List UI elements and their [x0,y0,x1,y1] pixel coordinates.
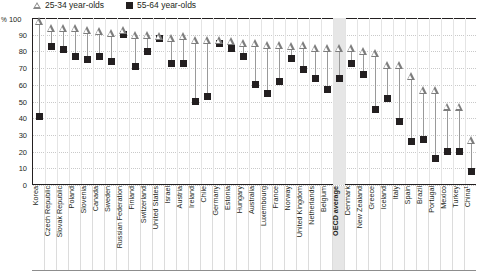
data-column [141,18,153,184]
data-column [69,18,81,184]
connector-line [207,40,208,97]
data-point-55-64 [384,95,391,102]
data-column [57,18,69,184]
plot-area [32,18,476,185]
y-axis-tick-label: 10 [19,164,27,173]
data-point-25-34 [47,24,55,32]
category-label-text: Spain [404,186,411,204]
category-label-text: Norway [284,186,291,210]
data-column [429,18,441,184]
data-column [165,18,177,184]
data-point-55-64 [300,66,307,73]
data-point-25-34 [227,37,235,45]
category-label-text: OECD average [332,186,339,236]
data-point-55-64 [324,86,331,93]
data-column [177,18,189,184]
data-column [369,18,381,184]
data-column [441,18,453,184]
y-axis-tick-label: 40 [19,114,27,123]
data-point-25-34 [371,49,379,57]
category-label-text: Slovenia [80,186,87,214]
data-point-55-64 [240,53,247,60]
data-column [189,18,201,184]
data-column [81,18,93,184]
connector-line [435,90,436,158]
category-label-text: Poland [68,186,75,208]
connector-line [411,76,412,141]
connector-line [387,65,388,98]
category-label-text: Luxembourg [260,186,267,226]
category-label-text: Italy [392,186,399,199]
data-point-55-64 [264,90,271,97]
connector-line [279,45,280,82]
data-point-25-34 [335,44,343,52]
connector-line [255,43,256,85]
data-point-25-34 [311,44,319,52]
category-label-text: Switzerland [140,186,147,223]
category-label-text: Brazil [416,186,423,204]
data-point-55-64 [132,63,139,70]
category-label-text: Israel [164,186,171,204]
data-point-25-34 [131,31,139,39]
category-label-text: China¹ [464,186,471,207]
data-column [93,18,105,184]
data-point-55-64 [432,155,439,162]
data-point-55-64 [60,46,67,53]
data-point-25-34 [215,36,223,44]
data-point-25-34 [95,27,103,35]
data-point-25-34 [59,24,67,32]
connector-line [423,90,424,140]
data-column [453,18,465,184]
data-point-55-64 [348,60,355,67]
data-column [297,18,309,184]
category-label-text: Hungary [236,186,243,213]
data-point-25-34 [239,39,247,47]
data-point-55-64 [288,55,295,62]
category-label-text: Russian Federation [116,186,123,248]
data-column [249,18,261,184]
legend-label-55-64: 55-64 year-olds [137,1,196,10]
data-column [213,18,225,184]
data-column [225,18,237,184]
legend-item-25-34: 25-34 year-olds [33,1,104,10]
connector-line [87,30,88,60]
connector-line [447,107,448,152]
y-axis-tick-label: 50 [19,97,27,106]
data-point-55-64 [48,43,55,50]
triangle-outline-marker-icon [33,2,41,9]
data-point-25-34 [143,31,151,39]
data-point-55-64 [108,58,115,65]
data-column [105,18,117,184]
data-point-25-34 [287,42,295,50]
data-point-55-64 [96,53,103,60]
y-axis-tick-label: 20 [19,147,27,156]
data-point-25-34 [383,61,391,69]
data-column [309,18,321,184]
data-point-55-64 [84,56,91,63]
y-axis-tick-labels: 9080706050403020100 [0,18,30,185]
data-column [465,18,477,184]
data-point-25-34 [443,103,451,111]
data-point-55-64 [312,75,319,82]
data-point-55-64 [396,118,403,125]
connector-line [375,53,376,110]
category-label-text: United States [152,186,159,229]
data-point-55-64 [168,60,175,67]
connector-line [135,35,136,67]
data-point-55-64 [360,71,367,78]
data-column [201,18,213,184]
y-axis-tick-label: 90 [19,30,27,39]
data-column [261,18,273,184]
category-label-text: Austria [176,186,183,208]
data-point-25-34 [419,86,427,94]
connector-line [315,48,316,78]
data-column [321,18,333,184]
data-point-55-64 [204,93,211,100]
data-point-25-34 [407,72,415,80]
category-label-text: Mexico [440,186,447,209]
data-point-25-34 [347,44,355,52]
chart-root: 25-34 year-olds 55-64 year-olds % 100 90… [0,0,480,271]
data-point-55-64 [372,106,379,113]
data-point-25-34 [359,47,367,55]
data-point-55-64 [36,113,43,120]
